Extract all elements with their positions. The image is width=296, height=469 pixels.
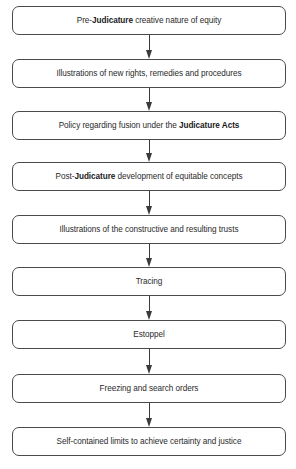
- flow-node-4: Post-Judicature development of equitable…: [12, 162, 286, 191]
- arrow-down-icon: [146, 296, 153, 320]
- flow-node-6: Tracing: [12, 267, 286, 296]
- arrow-down-icon: [146, 349, 153, 374]
- label-emphasis: Judicature Acts: [179, 121, 239, 130]
- flow-node-label: Tracing: [136, 277, 163, 286]
- label-text: Policy regarding fusion under the: [59, 121, 179, 130]
- arrow-down-icon: [146, 88, 153, 111]
- label-text: Illustrations of new rights, remedies an…: [57, 69, 242, 78]
- label-text: Illustrations of the constructive and re…: [60, 225, 239, 234]
- label-text: Tracing: [136, 277, 163, 286]
- flow-node-label: Policy regarding fusion under the Judica…: [59, 121, 240, 130]
- label-text: creative nature of equity: [133, 16, 221, 25]
- flow-node-label: Self-contained limits to achieve certain…: [57, 437, 242, 446]
- arrow-down-icon: [146, 403, 153, 427]
- flow-node-1: Pre-Judicature creative nature of equity: [12, 6, 286, 35]
- arrow-down-icon: [146, 191, 153, 215]
- label-text: Post-: [56, 172, 75, 181]
- flow-node-3: Policy regarding fusion under the Judica…: [12, 111, 286, 140]
- label-text: Pre-: [77, 16, 92, 25]
- label-emphasis: Judicature: [92, 16, 133, 25]
- flow-node-label: Estoppel: [133, 330, 164, 339]
- label-text: Estoppel: [133, 330, 164, 339]
- label-emphasis: Judicature: [74, 172, 115, 181]
- label-text: Self-contained limits to achieve certain…: [57, 437, 242, 446]
- label-text: Freezing and search orders: [100, 384, 199, 393]
- flow-node-9: Self-contained limits to achieve certain…: [12, 427, 286, 456]
- flow-node-label: Post-Judicature development of equitable…: [56, 172, 243, 181]
- flow-node-2: Illustrations of new rights, remedies an…: [12, 59, 286, 88]
- arrow-down-icon: [146, 35, 153, 59]
- flow-node-7: Estoppel: [12, 320, 286, 349]
- arrow-down-icon: [146, 244, 153, 267]
- flow-node-label: Pre-Judicature creative nature of equity: [77, 16, 222, 25]
- flow-node-label: Illustrations of new rights, remedies an…: [57, 69, 242, 78]
- flow-node-5: Illustrations of the constructive and re…: [12, 215, 286, 244]
- flow-node-label: Freezing and search orders: [100, 384, 199, 393]
- label-text: development of equitable concepts: [115, 172, 242, 181]
- flow-node-label: Illustrations of the constructive and re…: [60, 225, 239, 234]
- arrow-down-icon: [146, 140, 153, 162]
- flow-node-8: Freezing and search orders: [12, 374, 286, 403]
